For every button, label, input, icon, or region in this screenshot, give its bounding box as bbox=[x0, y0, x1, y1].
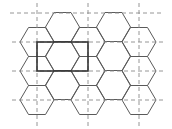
hex-grid-diagram bbox=[0, 0, 172, 129]
